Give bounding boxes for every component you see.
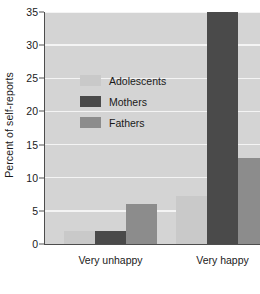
- legend-swatch-icon: [80, 96, 101, 107]
- y-axis-tick-labels: 05101520253035: [18, 0, 44, 250]
- x-axis-tick-label: Very happy: [196, 254, 249, 266]
- chart-figure: Percent of self-reports 05101520253035 A…: [0, 0, 260, 294]
- legend-item: Fathers: [80, 114, 190, 131]
- y-axis-line: [44, 12, 45, 245]
- legend-swatch-icon: [80, 117, 101, 128]
- y-axis-title: Percent of self-reports: [0, 0, 18, 250]
- bar: [238, 158, 260, 244]
- legend-item: Mothers: [80, 93, 190, 110]
- chart-legend: AdolescentsMothersFathers: [80, 72, 190, 135]
- bar: [126, 204, 157, 244]
- legend-item: Adolescents: [80, 72, 190, 89]
- y-axis-title-text: Percent of self-reports: [3, 72, 15, 178]
- x-axis-tick-label: Very unhappy: [78, 254, 142, 266]
- bar: [64, 231, 95, 244]
- y-axis-tick-label: 30: [26, 39, 38, 51]
- bar: [207, 12, 238, 244]
- y-axis-tick-label: 5: [32, 205, 38, 217]
- legend-swatch-icon: [80, 75, 101, 86]
- y-axis-tick-label: 20: [26, 105, 38, 117]
- legend-label: Adolescents: [109, 75, 166, 87]
- y-axis-tick-label: 15: [26, 139, 38, 151]
- legend-label: Fathers: [109, 117, 145, 129]
- y-axis-tick-label: 35: [26, 6, 38, 18]
- y-axis-tick-label: 25: [26, 72, 38, 84]
- bar: [95, 231, 126, 244]
- y-axis-tick-label: 10: [26, 172, 38, 184]
- y-axis-tick-label: 0: [32, 238, 38, 250]
- legend-label: Mothers: [109, 96, 147, 108]
- x-axis-line: [44, 244, 260, 245]
- bar: [176, 196, 207, 244]
